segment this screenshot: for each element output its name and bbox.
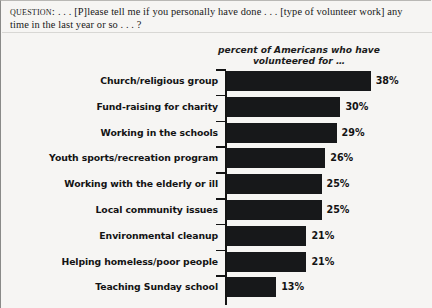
axis-tick: [216, 121, 226, 123]
bar-row: Local community issues25%: [1, 198, 432, 222]
bar-category-label: Fund-raising for charity: [97, 95, 218, 119]
question-line-1: . . . [P]lease tell me if you personally…: [55, 6, 356, 17]
bar-value-label: 26%: [330, 148, 353, 168]
header-divider: [2, 32, 432, 33]
axis-tick: [216, 275, 226, 277]
bar-value-label: 38%: [376, 71, 399, 91]
bar: [227, 252, 306, 272]
axis-tick: [216, 146, 226, 148]
bar: [227, 277, 276, 297]
bar: [227, 174, 322, 194]
bar-row: Youth sports/recreation program26%: [1, 146, 432, 170]
bar: [227, 123, 337, 143]
bar: [227, 200, 322, 220]
axis-tick: [216, 250, 226, 252]
bar-value-label: 25%: [327, 174, 350, 194]
axis-tick: [216, 198, 226, 200]
axis-tick: [216, 95, 226, 97]
question-block: Question: . . . [P]lease tell me if you …: [10, 5, 424, 31]
bar-category-label: Youth sports/recreation program: [49, 146, 218, 170]
question-text: Question: . . . [P]lease tell me if you …: [10, 5, 424, 31]
axis-tick: [216, 69, 226, 71]
bar-row: Helping homeless/poor people21%: [1, 250, 432, 274]
bar-category-label: Working in the schools: [101, 121, 218, 145]
bar-row: Environmental cleanup21%: [1, 224, 432, 248]
bar-value-label: 30%: [345, 97, 368, 117]
bar-value-label: 21%: [311, 252, 334, 272]
bar-chart: Church/religious group38%Fund-raising fo…: [1, 69, 432, 308]
bar-row: Fund-raising for charity30%: [1, 95, 432, 119]
bar: [227, 97, 340, 117]
bar: [227, 226, 306, 246]
bar-row: Working in the schools29%: [1, 121, 432, 145]
bar: [227, 71, 371, 91]
bar-category-label: Helping homeless/poor people: [61, 250, 218, 274]
bar: [227, 148, 325, 168]
bar-value-label: 25%: [327, 200, 350, 220]
bar-value-label: 29%: [342, 123, 365, 143]
axis-tick: [216, 224, 226, 226]
bar-row: Teaching Sunday school13%: [1, 275, 432, 299]
bar-category-label: Environmental cleanup: [99, 224, 218, 248]
bar-category-label: Local community issues: [96, 198, 218, 222]
chart-subtitle-line-2: volunteered for …: [201, 56, 397, 67]
bar-category-label: Working with the elderly or ill: [64, 172, 218, 196]
bar-row: Working with the elderly or ill25%: [1, 172, 432, 196]
chart-subtitle-line-1: percent of Americans who have: [201, 45, 397, 56]
chart-subtitle: percent of Americans who have volunteere…: [201, 45, 397, 67]
bar-value-label: 13%: [281, 277, 304, 297]
bar-row: Church/religious group38%: [1, 69, 432, 93]
bar-value-label: 21%: [311, 226, 334, 246]
bar-category-label: Church/religious group: [100, 69, 218, 93]
axis-tick: [216, 172, 226, 174]
bar-category-label: Teaching Sunday school: [95, 275, 218, 299]
question-label: Question:: [10, 5, 55, 17]
